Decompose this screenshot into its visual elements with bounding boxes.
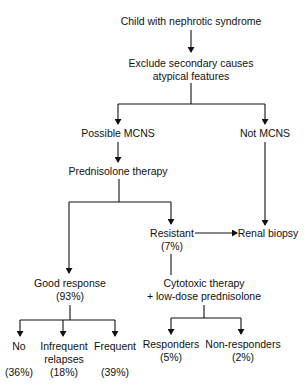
node-text: atypical features [129, 70, 254, 83]
node-frequent-relapses: Frequent (39%) [94, 340, 136, 379]
node-not-mcns: Not MCNS [240, 127, 290, 140]
node-resistant: Resistant (7%) [150, 227, 194, 253]
node-percent: (2%) [205, 351, 280, 364]
node-child-nephrotic: Child with nephrotic syndrome [121, 15, 262, 28]
node-text: Infrequent [40, 340, 87, 353]
node-percent: (18%) [40, 366, 87, 379]
node-percent: (93%) [34, 290, 106, 303]
node-text: Prednisolone therapy [68, 165, 167, 178]
node-spacer [5, 353, 33, 366]
node-text: Not MCNS [240, 127, 290, 140]
node-text: Non-responders [205, 338, 280, 351]
node-percent: (7%) [150, 240, 194, 253]
node-text: No [5, 340, 33, 353]
node-no-relapse: No (36%) [5, 340, 33, 379]
node-responders: Responders (5%) [143, 338, 200, 364]
node-non-responders: Non-responders (2%) [205, 338, 280, 364]
node-text: Cytotoxic therapy [147, 277, 261, 290]
node-text: Exclude secondary causes [129, 57, 254, 70]
node-prednisolone-therapy: Prednisolone therapy [68, 165, 167, 178]
node-infrequent-relapses: Infrequent relapses (18%) [40, 340, 87, 379]
node-text: Good response [34, 277, 106, 290]
node-text: relapses [40, 353, 87, 366]
node-renal-biopsy: Renal biopsy [238, 227, 299, 240]
node-percent: (39%) [94, 366, 136, 379]
node-text: Renal biopsy [238, 227, 299, 240]
node-text: Frequent [94, 340, 136, 353]
node-text: Possible MCNS [81, 127, 155, 140]
node-text: Responders [143, 338, 200, 351]
node-text: + low-dose prednisolone [147, 290, 261, 303]
node-exclude-secondary: Exclude secondary causes atypical featur… [129, 57, 254, 83]
node-good-response: Good response (93%) [34, 277, 106, 303]
node-text: Child with nephrotic syndrome [121, 15, 262, 28]
node-percent: (36%) [5, 366, 33, 379]
node-text: Resistant [150, 227, 194, 240]
node-percent: (5%) [143, 351, 200, 364]
node-cytotoxic-therapy: Cytotoxic therapy + low-dose prednisolon… [147, 277, 261, 303]
node-possible-mcns: Possible MCNS [81, 127, 155, 140]
node-spacer [94, 353, 136, 366]
